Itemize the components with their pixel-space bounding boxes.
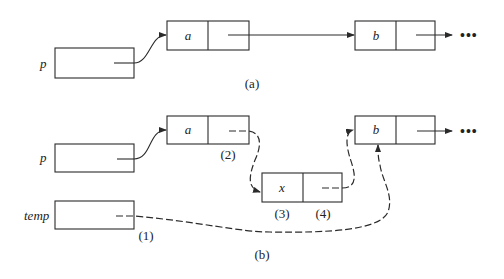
pointer-p-label-b: p (39, 150, 47, 165)
node-x-value: x (278, 180, 285, 195)
step-2-label: (2) (220, 147, 235, 162)
caption-b: (b) (254, 247, 269, 262)
part-a: p a b ••• (a) (39, 21, 478, 91)
p-to-a-arrow-b (134, 130, 166, 159)
node-a-value: a (185, 28, 192, 43)
node-a-b: a (167, 116, 249, 144)
node-b-value-b: b (373, 122, 380, 137)
step-1-label: (1) (138, 228, 153, 243)
temp-box (55, 201, 134, 229)
node-x: x (262, 173, 342, 202)
continuation-dots-b: ••• (460, 124, 478, 139)
pointer-p-box-b (55, 144, 134, 172)
linked-list-diagram: p a b ••• (a) p a (2) (0, 0, 504, 279)
node-b-b: b (355, 116, 435, 144)
node-a-value-b: a (185, 122, 192, 137)
part-b: p a (2) x (3) (4) b ••• (24, 116, 478, 262)
step-4-label: (4) (315, 206, 330, 221)
node-b-value: b (373, 28, 380, 43)
pointer-p-label-a: p (39, 56, 47, 71)
step-3-label: (3) (274, 206, 289, 221)
temp-label: temp (24, 208, 50, 223)
continuation-dots-a: ••• (460, 28, 478, 43)
temp-to-b-dashed-arrow (116, 145, 390, 232)
caption-a: (a) (245, 76, 259, 91)
p-to-a-arrow (134, 35, 166, 63)
